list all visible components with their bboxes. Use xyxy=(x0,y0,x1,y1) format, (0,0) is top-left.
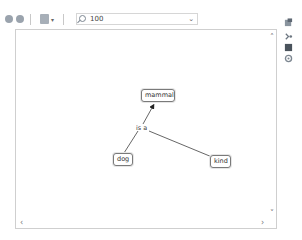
layout-dropdown-caret-icon[interactable]: ▾ xyxy=(51,17,54,23)
back-arrow-icon[interactable] xyxy=(5,15,13,23)
connector-icon[interactable] xyxy=(284,32,293,41)
node-label: mammal xyxy=(145,91,174,99)
node-label: kind xyxy=(214,157,228,165)
link-label-is-a[interactable]: is a xyxy=(136,124,147,132)
forward-arrow-icon[interactable] xyxy=(16,15,24,23)
zoom-value[interactable]: 100 xyxy=(90,14,103,24)
node-dog[interactable]: dog xyxy=(113,153,133,166)
node-label: dog xyxy=(117,155,129,163)
fill-color-icon[interactable] xyxy=(284,43,293,52)
zoom-combobox[interactable]: 100 ⌄ xyxy=(76,13,198,25)
scroll-down-icon[interactable]: ˅ xyxy=(270,210,274,218)
magnifier-icon xyxy=(79,15,86,22)
scroll-right-icon[interactable]: › xyxy=(261,219,264,227)
layout-menu-icon[interactable] xyxy=(40,14,49,24)
toolbar-divider xyxy=(63,14,64,25)
scroll-left-icon[interactable]: ‹ xyxy=(20,219,23,227)
style-icon[interactable] xyxy=(284,18,293,27)
node-kind[interactable]: kind xyxy=(210,155,231,168)
settings-icon[interactable] xyxy=(284,54,293,63)
toolbar-divider xyxy=(30,14,31,25)
chevron-down-icon[interactable]: ⌄ xyxy=(188,15,194,23)
node-mammal[interactable]: mammal xyxy=(141,89,175,102)
toolbar: ▾ 100 ⌄ xyxy=(0,12,278,28)
scroll-up-icon[interactable]: ˄ xyxy=(270,34,274,42)
